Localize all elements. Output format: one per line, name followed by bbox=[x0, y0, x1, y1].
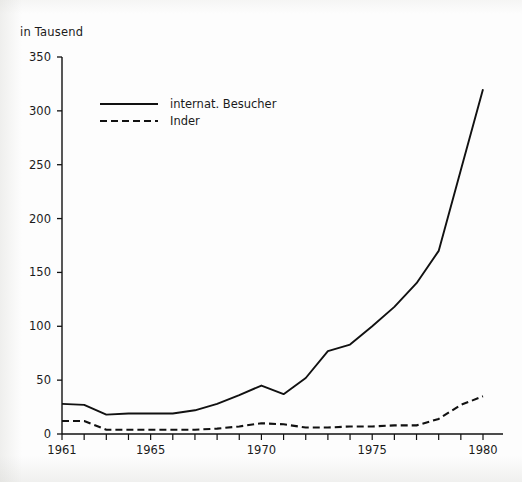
x-axis-tick-label: 1965 bbox=[136, 443, 165, 457]
legend-label-1: internat. Besucher bbox=[170, 97, 277, 111]
y-axis-tick-label: 50 bbox=[36, 373, 51, 387]
y-axis-tick-label: 250 bbox=[29, 158, 51, 172]
series-layer bbox=[62, 89, 483, 429]
y-axis-tick-label: 350 bbox=[29, 50, 51, 64]
chart-page: in Tausend 050100150200250300350 1961196… bbox=[0, 0, 522, 482]
legend-label-2: Inder bbox=[170, 114, 200, 128]
y-axis: 050100150200250300350 bbox=[29, 50, 62, 441]
series-line bbox=[62, 89, 483, 414]
x-axis-tick-label: 1975 bbox=[358, 443, 387, 457]
y-axis-tick-label: 0 bbox=[44, 427, 51, 441]
line-chart: 050100150200250300350 196119651970197519… bbox=[0, 0, 522, 482]
y-axis-tick-label: 200 bbox=[29, 212, 51, 226]
x-axis: 19611965197019751980 bbox=[47, 434, 503, 457]
x-axis-tick-label: 1970 bbox=[247, 443, 276, 457]
x-axis-tick-label: 1980 bbox=[468, 443, 497, 457]
x-axis-tick-label: 1961 bbox=[47, 443, 76, 457]
chart-legend: internat. BesucherInder bbox=[100, 97, 277, 128]
y-axis-tick-label: 300 bbox=[29, 104, 51, 118]
y-axis-tick-label: 150 bbox=[29, 265, 51, 279]
y-axis-tick-label: 100 bbox=[29, 319, 51, 333]
